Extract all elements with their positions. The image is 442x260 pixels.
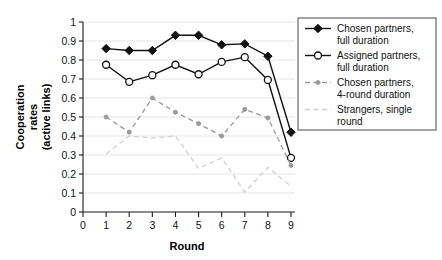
series-2-marker-5 bbox=[220, 134, 224, 138]
x-tick-label-7: 7 bbox=[242, 219, 248, 231]
series-0-marker-8 bbox=[287, 128, 295, 136]
chart-figure: 00.10.20.30.40.50.60.70.80.910123456789R… bbox=[0, 0, 442, 260]
y-tick-label-9: 0.9 bbox=[61, 35, 76, 47]
series-0-line bbox=[106, 35, 291, 132]
series-1-marker-0 bbox=[103, 61, 110, 68]
y-tick-label-1: 0.1 bbox=[61, 187, 76, 199]
series-0-marker-5 bbox=[217, 41, 225, 49]
y-tick-label-0: 0 bbox=[70, 206, 76, 218]
legend: Chosen partners,full durationAssigned pa… bbox=[298, 18, 436, 130]
series-1-marker-1 bbox=[126, 78, 133, 85]
series-2-marker-6 bbox=[243, 107, 247, 111]
legend-label-3-line-0: Strangers, single bbox=[337, 104, 412, 115]
y-axis-title-line-0: Cooperation bbox=[14, 84, 26, 149]
y-tick-label-3: 0.3 bbox=[61, 149, 76, 161]
series-2-marker-7 bbox=[266, 116, 270, 120]
x-tick-label-2: 2 bbox=[126, 219, 132, 231]
series-2-marker-8 bbox=[289, 163, 293, 167]
series-1-marker-6 bbox=[241, 54, 248, 61]
x-tick-label-6: 6 bbox=[219, 219, 225, 231]
series-2 bbox=[104, 96, 293, 168]
series-2-marker-2 bbox=[150, 96, 154, 100]
series-2-marker-1 bbox=[127, 130, 131, 134]
y-axis-title: Cooperationrates(active links) bbox=[14, 83, 52, 150]
y-axis-title-line-2: (active links) bbox=[40, 83, 52, 150]
series-0-marker-3 bbox=[171, 31, 179, 39]
series-0-marker-1 bbox=[125, 46, 133, 54]
series-1-marker-5 bbox=[218, 58, 225, 65]
series-1 bbox=[103, 54, 295, 162]
series-1-marker-3 bbox=[172, 61, 179, 68]
x-tick-label-3: 3 bbox=[149, 219, 155, 231]
series-2-marker-4 bbox=[196, 122, 200, 126]
legend-label-1-line-0: Assigned partners, bbox=[337, 50, 420, 61]
series-2-marker-3 bbox=[173, 110, 177, 114]
x-tick-label-4: 4 bbox=[173, 219, 179, 231]
x-axis: 0123456789 bbox=[80, 212, 295, 231]
legend-label-3-line-1: round bbox=[337, 116, 363, 127]
y-tick-label-2: 0.2 bbox=[61, 168, 76, 180]
series-group bbox=[102, 31, 295, 192]
legend-swatch-1-marker-0 bbox=[315, 52, 322, 59]
x-tick-label-9: 9 bbox=[288, 219, 294, 231]
legend-label-1-line-1: full duration bbox=[337, 62, 389, 73]
series-1-marker-2 bbox=[149, 72, 156, 79]
legend-label-2-line-0: Chosen partners, bbox=[337, 77, 414, 88]
series-3 bbox=[106, 136, 291, 192]
series-3-line bbox=[106, 136, 291, 192]
y-axis: 00.10.20.30.40.50.60.70.80.91 bbox=[61, 16, 83, 218]
x-axis-title: Round bbox=[170, 240, 205, 252]
cooperation-rates-line-chart: 00.10.20.30.40.50.60.70.80.910123456789R… bbox=[0, 0, 442, 260]
y-tick-label-8: 0.8 bbox=[61, 54, 76, 66]
y-tick-label-7: 0.7 bbox=[61, 73, 76, 85]
x-tick-label-5: 5 bbox=[196, 219, 202, 231]
y-tick-label-5: 0.5 bbox=[61, 111, 76, 123]
series-1-marker-7 bbox=[264, 76, 271, 83]
x-tick-label-1: 1 bbox=[103, 219, 109, 231]
legend-label-0-line-1: full duration bbox=[337, 35, 389, 46]
legend-label-2-line-1: 4-round duration bbox=[337, 89, 410, 100]
y-axis-title-line-1: rates bbox=[27, 104, 39, 130]
series-0-marker-4 bbox=[194, 31, 202, 39]
legend-label-0-line-0: Chosen partners, bbox=[337, 23, 414, 34]
x-tick-label-0: 0 bbox=[80, 219, 86, 231]
series-0-marker-7 bbox=[264, 52, 272, 60]
series-0-marker-0 bbox=[102, 44, 110, 52]
series-1-marker-4 bbox=[195, 71, 202, 78]
y-tick-label-10: 1 bbox=[70, 16, 76, 28]
y-tick-label-4: 0.4 bbox=[61, 130, 76, 142]
series-0-marker-2 bbox=[148, 46, 156, 54]
legend-swatch-2-marker-0 bbox=[316, 80, 320, 84]
series-2-marker-0 bbox=[104, 115, 108, 119]
gridlines bbox=[83, 22, 295, 193]
x-tick-label-8: 8 bbox=[265, 219, 271, 231]
y-tick-label-6: 0.6 bbox=[61, 92, 76, 104]
